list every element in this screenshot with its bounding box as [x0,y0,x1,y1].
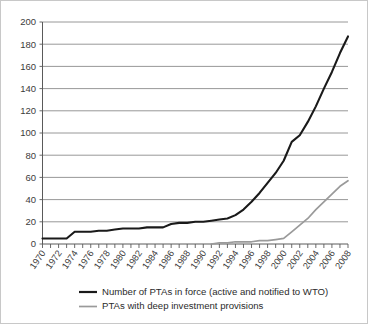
chart-legend: Number of PTAs in force (active and noti… [79,286,328,312]
x-tick-label-2002: 2002 [285,248,305,270]
x-tick-label-1986: 1986 [156,248,176,270]
y-tick-label-180: 180 [20,39,36,50]
x-tick-label-1974: 1974 [60,248,80,270]
x-tick-label-1988: 1988 [172,248,192,270]
x-tick-label-1998: 1998 [253,248,273,270]
x-axis-tick-labels-group: 1970197219741976197819801982198419861988… [28,248,353,270]
x-tick-label-2004: 2004 [301,248,321,270]
x-tick-label-1970: 1970 [28,248,48,270]
y-axis-tick-labels-group: 020406080100120140160180200 [20,16,42,249]
legend-label-ptas-with-deep-investment-provisions: PTAs with deep investment provisions [102,300,264,311]
x-tick-label-1990: 1990 [189,248,209,270]
y-tick-label-140: 140 [20,83,36,94]
gridlines-group [43,22,349,222]
x-axis-tickmarks-group [43,244,349,248]
y-tick-label-120: 120 [20,105,36,116]
y-tick-label-0: 0 [31,238,36,249]
x-tick-label-2000: 2000 [269,248,289,270]
x-tick-label-1994: 1994 [221,248,241,270]
y-tick-label-40: 40 [25,194,36,205]
legend-label-number-of-ptas-in-force: Number of PTAs in force (active and noti… [102,286,328,297]
x-tick-label-1976: 1976 [76,248,96,270]
y-tick-label-100: 100 [20,127,36,138]
y-tick-label-160: 160 [20,61,36,72]
x-tick-label-1996: 1996 [237,248,257,270]
x-tick-label-1984: 1984 [140,248,160,270]
y-tick-label-200: 200 [20,16,36,27]
x-tick-label-2006: 2006 [317,248,337,270]
x-tick-label-1978: 1978 [92,248,112,270]
x-tick-label-1972: 1972 [44,248,64,270]
chart-canvas: 020406080100120140160180200 197019721974… [1,1,368,324]
x-tick-label-2008: 2008 [333,248,353,270]
chart-figure: 020406080100120140160180200 197019721974… [0,0,368,324]
x-tick-label-1980: 1980 [108,248,128,270]
x-tick-label-1982: 1982 [124,248,144,270]
x-tick-label-1992: 1992 [205,248,225,270]
y-tick-label-60: 60 [25,172,36,183]
y-tick-label-80: 80 [25,150,36,161]
y-tick-label-20: 20 [25,216,36,227]
series-line-ptas-with-deep-investment-provisions [211,181,348,244]
